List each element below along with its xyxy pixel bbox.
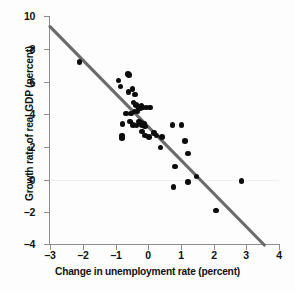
data-point [126, 72, 132, 78]
data-point [120, 121, 126, 127]
data-point [77, 59, 83, 65]
y-tick-10 [44, 16, 49, 17]
zero-reference-line [50, 180, 279, 181]
data-point [118, 84, 124, 90]
plot-area: 10 8 6 4 2 0 –2 –4 –3 –2 –1 0 1 2 3 4 Ch… [0, 0, 295, 293]
data-point [194, 174, 200, 180]
data-point [132, 92, 138, 98]
data-point [185, 151, 191, 157]
x-ticklabel-neg1: –1 [105, 249, 127, 261]
y-tick-neg2 [44, 212, 49, 213]
data-point [171, 184, 177, 190]
data-point [128, 111, 134, 117]
x-ticklabel-2: 2 [203, 249, 225, 261]
data-point [185, 179, 191, 185]
data-point [116, 78, 122, 84]
y-axis-line [49, 16, 50, 245]
data-point [170, 122, 176, 128]
data-point [123, 111, 129, 117]
data-point [179, 122, 185, 128]
data-point [182, 138, 188, 144]
data-point [130, 86, 136, 92]
data-point [119, 135, 125, 141]
data-point [239, 178, 245, 184]
y-axis-title: Growth rate of real GDP (percent) [24, 9, 35, 239]
x-ticklabel-neg3: –3 [39, 249, 61, 261]
x-ticklabel-4: 4 [268, 249, 290, 261]
x-ticklabel-0: 0 [137, 249, 159, 261]
y-tick-4 [44, 114, 49, 115]
x-ticklabel-1: 1 [170, 249, 192, 261]
data-point [147, 105, 153, 111]
y-tick-6 [44, 82, 49, 83]
x-axis-title: Change in unemployment rate (percent) [0, 266, 295, 277]
x-ticklabel-3: 3 [235, 249, 257, 261]
y-tick-2 [44, 147, 49, 148]
okun-law-scatter-figure: 10 8 6 4 2 0 –2 –4 –3 –2 –1 0 1 2 3 4 Ch… [0, 0, 295, 293]
data-point [158, 145, 164, 151]
data-point [159, 134, 165, 140]
y-ticklabel-neg4: –4 [13, 238, 35, 250]
data-point [172, 164, 178, 170]
x-ticklabel-neg2: –2 [72, 249, 94, 261]
y-tick-neg4 [44, 244, 49, 245]
y-tick-8 [44, 49, 49, 50]
y-tick-0 [44, 180, 49, 181]
data-point [213, 208, 219, 214]
